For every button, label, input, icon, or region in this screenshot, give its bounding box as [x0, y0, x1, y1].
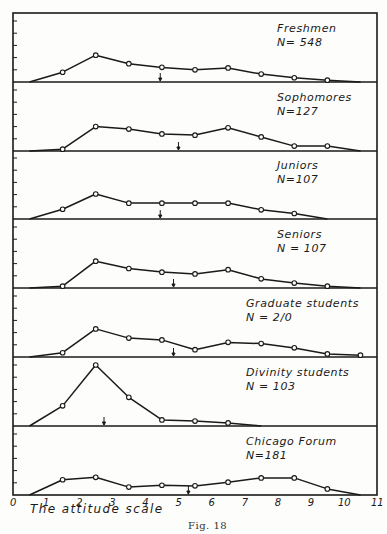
data-point: [127, 201, 132, 206]
panel-title: Divinity students: [246, 366, 349, 379]
data-point: [60, 70, 65, 75]
data-point: [259, 72, 264, 77]
data-point: [160, 132, 165, 137]
panel-title: Seniors: [277, 228, 322, 241]
data-point: [127, 336, 132, 341]
x-tick-label: 9: [308, 497, 314, 508]
data-point: [127, 61, 132, 66]
chart-panels: FreshmenN= 548SophomoresN=127JuniorsN=10…: [13, 13, 377, 495]
data-point: [93, 475, 98, 480]
data-point: [193, 419, 198, 424]
data-point: [93, 53, 98, 58]
panel-divinity-students: Divinity studentsN = 103: [13, 363, 377, 426]
data-point: [93, 124, 98, 129]
data-point: [193, 68, 198, 73]
arrow-head: [172, 284, 175, 287]
data-point: [292, 281, 297, 286]
data-point: [358, 353, 363, 358]
data-point: [226, 421, 231, 426]
data-point: [292, 346, 297, 351]
data-point: [292, 144, 297, 149]
x-tick-label: 10: [338, 497, 351, 508]
data-point: [60, 207, 65, 212]
data-point: [160, 338, 165, 343]
data-point: [160, 483, 165, 488]
data-point: [127, 266, 132, 271]
median-arrow-icon: [187, 486, 190, 494]
data-point: [259, 208, 264, 213]
data-point: [193, 272, 198, 277]
x-tick-label: 7: [242, 497, 249, 508]
data-point: [226, 66, 231, 71]
arrow-head: [177, 147, 180, 150]
arrow-head: [159, 215, 162, 218]
data-point: [259, 135, 264, 140]
panel-chicago-forum: Chicago ForumN=181: [13, 434, 361, 495]
median-arrow-icon: [102, 417, 105, 425]
panel-title: Freshmen: [277, 22, 337, 35]
data-point: [259, 341, 264, 346]
arrow-head: [172, 353, 175, 356]
data-point: [226, 480, 231, 485]
median-arrow-icon: [172, 348, 175, 356]
panel-n-label: N=107: [277, 173, 318, 186]
x-tick-label: 8: [275, 497, 281, 508]
data-point: [325, 144, 330, 149]
data-point: [60, 350, 65, 355]
panel-n-label: N = 107: [277, 242, 327, 255]
data-point: [292, 211, 297, 216]
data-point: [325, 352, 330, 357]
data-point: [325, 487, 330, 492]
data-point: [93, 327, 98, 332]
figure-caption: Fig. 18: [188, 520, 227, 531]
data-point: [226, 201, 231, 206]
panel-n-label: N= 548: [277, 36, 323, 49]
data-point: [226, 126, 231, 131]
panel-title: Sophomores: [277, 91, 352, 104]
data-point: [226, 267, 231, 272]
median-arrow-icon: [177, 142, 180, 150]
panel-n-label: N = 103: [246, 380, 296, 393]
panel-title: Juniors: [275, 159, 318, 172]
panel-n-label: N=127: [277, 105, 318, 118]
data-point: [325, 78, 330, 83]
median-arrow-icon: [159, 210, 162, 218]
data-point: [60, 147, 65, 152]
data-point: [60, 404, 65, 409]
data-point: [160, 65, 165, 70]
x-tick-label: 0: [10, 497, 16, 508]
data-point: [127, 127, 132, 132]
x-tick-label: 5: [175, 497, 181, 508]
x-tick-label: 6: [209, 497, 215, 508]
series-line: [30, 365, 262, 426]
median-arrow-icon: [159, 73, 162, 81]
data-point: [93, 259, 98, 264]
data-point: [259, 277, 264, 282]
data-point: [127, 395, 132, 400]
data-point: [259, 476, 264, 481]
data-point: [160, 201, 165, 206]
panel-title: Chicago Forum: [246, 435, 337, 448]
series-line: [30, 329, 361, 357]
median-arrow-icon: [172, 279, 175, 287]
attitude-scale-chart: FreshmenN= 548SophomoresN=127JuniorsN=10…: [0, 0, 387, 534]
data-point: [160, 270, 165, 275]
data-point: [160, 418, 165, 423]
data-point: [193, 133, 198, 138]
arrow-head: [159, 78, 162, 81]
data-point: [226, 340, 231, 345]
panel-sophomores: SophomoresN=127: [13, 90, 377, 151]
arrow-head: [187, 491, 190, 494]
x-axis-label: The attitude scale: [30, 502, 163, 516]
series-line: [30, 194, 328, 219]
x-tick-label: 11: [371, 497, 384, 508]
data-point: [60, 477, 65, 482]
data-point: [60, 284, 65, 289]
panel-seniors: SeniorsN = 107: [13, 227, 377, 288]
data-point: [193, 201, 198, 206]
data-point: [127, 485, 132, 490]
panel-n-label: N=181: [246, 449, 287, 462]
data-point: [193, 484, 198, 489]
arrow-head: [102, 422, 105, 425]
data-point: [193, 347, 198, 352]
